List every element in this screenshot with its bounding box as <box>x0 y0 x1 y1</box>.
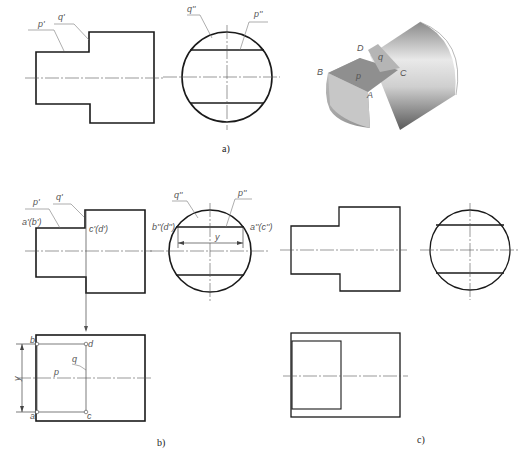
iso-label-C: C <box>400 68 407 78</box>
iso-label-D: D <box>357 43 364 53</box>
iso-label-A: A <box>366 90 373 100</box>
figure-a-isometric-view: D q B p C A <box>317 22 458 130</box>
label-q-double-prime: q'' <box>187 4 196 14</box>
caption-b: b) <box>157 437 165 449</box>
label-y-top: y <box>12 376 22 382</box>
label-c-top: c <box>87 411 92 421</box>
label-y-side: y <box>214 232 220 242</box>
label-a-top: a <box>30 411 35 421</box>
label-q-prime-b: q' <box>56 192 63 202</box>
figure-a-side-view: q'' p'' <box>163 4 280 130</box>
figure-c-top-view <box>283 333 408 417</box>
technical-drawing: p' q' q'' p'' D q B p C A a) <box>0 0 531 458</box>
figure-b-side-view: q'' p'' b''(d'') a''(c'') y <box>150 188 272 303</box>
label-p-double-prime-b: p'' <box>237 188 247 198</box>
label-p-double-prime: p'' <box>253 9 263 19</box>
label-q-top: q <box>72 354 77 364</box>
figure-b-top-view: b d q p a c y <box>12 335 152 421</box>
label-p-prime: p' <box>37 19 45 29</box>
caption-c: c) <box>417 434 425 446</box>
label-b-d-double-prime: b''(d'') <box>152 222 175 232</box>
label-p-prime-b: p' <box>32 197 40 207</box>
label-q-prime: q' <box>58 12 65 22</box>
iso-label-q: q <box>378 52 383 62</box>
label-b-top: b <box>30 335 35 345</box>
iso-label-B: B <box>317 67 323 77</box>
label-q-double-prime-b: q'' <box>174 190 183 200</box>
figure-a-front-view: p' q' <box>25 12 165 123</box>
label-a-c-double-prime: a''(c'') <box>250 222 272 232</box>
iso-label-p: p <box>355 71 361 81</box>
figure-b-front-view: p' q' a'(b') c'(d') <box>22 192 152 332</box>
figure-c-front-view <box>280 207 407 291</box>
label-d-top: d <box>88 339 94 349</box>
label-p-top: p <box>53 367 59 377</box>
caption-a: a) <box>222 143 230 155</box>
label-a-b-prime: a'(b') <box>22 217 41 227</box>
figure-c-side-view <box>420 203 520 300</box>
label-c-d-prime: c'(d') <box>89 224 108 234</box>
